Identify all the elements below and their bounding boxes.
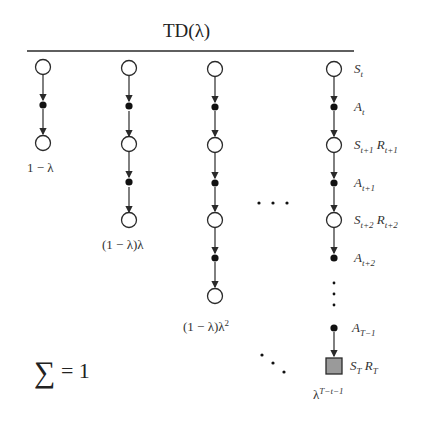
label-a-t: At	[354, 99, 364, 117]
backup-column-2	[122, 61, 137, 228]
backup-column-1	[36, 60, 51, 151]
label-s-t: St	[354, 61, 363, 79]
terminal-state-node	[326, 358, 342, 374]
weight-label-2: (1 − λ)λ	[102, 237, 144, 253]
summation-label: ∑ = 1	[34, 355, 90, 389]
label-s-t2: St+2 Rt+2	[354, 212, 398, 230]
state-node	[36, 60, 51, 75]
label-s-t1: St+1 Rt+1	[354, 137, 398, 155]
weight-label-3: (1 − λ)λ2	[183, 318, 229, 335]
weight-label-4: λT−t−1	[313, 386, 343, 403]
label-s-T: ST RT	[350, 358, 378, 376]
backup-column-3	[208, 62, 223, 304]
action-node	[39, 101, 46, 108]
horizontal-ellipsis	[257, 201, 288, 204]
diagonal-ellipsis	[260, 353, 285, 373]
td-lambda-backup-diagram: TD(λ)	[0, 0, 437, 421]
label-a-t1: At+1	[354, 175, 375, 193]
weight-label-1: 1 − λ	[27, 160, 54, 176]
backup-column-4	[326, 62, 342, 375]
vertical-ellipsis	[333, 282, 336, 307]
label-a-T1: AT−1	[352, 320, 376, 338]
label-a-t2: At+2	[354, 250, 375, 268]
state-node	[36, 136, 51, 151]
